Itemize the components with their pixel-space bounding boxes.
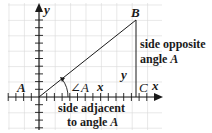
vertex-c-label: C [139,80,148,95]
side-adjacent-label-line2: to angle A [67,115,118,129]
side-adjacent-label-var: A [109,115,118,129]
side-opposite-label-line1: side opposite [140,37,206,51]
axis-x-label: x [151,78,159,93]
y-axis-arrow-icon [35,3,43,12]
angle-a-label: ∠A [70,80,89,95]
vertex-a-label: A [16,80,26,95]
horizontal-leg-label: x [96,79,104,94]
side-adjacent-label-line1: side adjacent [58,101,125,115]
side-opposite-label-line2: angle A [140,52,178,66]
vertical-leg-label: y [119,67,127,82]
vertex-b-label: B [130,5,140,20]
side-opposite-label-var: A [169,52,178,66]
side-adjacent-label-prefix: to angle [67,115,110,129]
side-opposite-label-prefix: angle [140,52,170,66]
axis-y-label: y [42,2,50,17]
triangle-diagram: y A B C x ∠A x y side opposite angle A s… [0,0,212,133]
x-axis-arrow-icon [154,93,163,101]
